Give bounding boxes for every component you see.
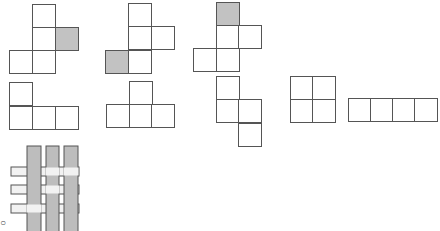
strip-crossing xyxy=(64,168,79,176)
corner-mark: ○ xyxy=(0,217,6,228)
strip-crossing xyxy=(27,205,42,213)
strip-crossing xyxy=(46,186,60,194)
weave-pattern-diagram xyxy=(0,0,440,231)
vertical-strip xyxy=(27,146,41,231)
vertical-strip xyxy=(64,146,78,231)
strip-crossing xyxy=(46,168,60,176)
